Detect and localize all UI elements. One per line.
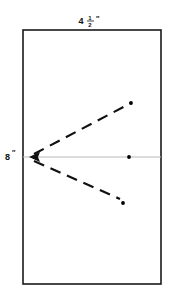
upper-ray-dot	[129, 101, 133, 105]
height-label-inch-mark: ″	[12, 149, 16, 156]
lower-ray-dot	[121, 201, 125, 205]
height-label-value: 8	[5, 152, 10, 162]
height-dimension-label: 8 ″	[5, 149, 16, 162]
center-line-dot	[127, 155, 131, 159]
width-label-numerator: 1	[88, 15, 92, 21]
width-label-whole: 4	[78, 16, 83, 26]
width-dimension-label: 4 1 2 ″	[78, 15, 100, 28]
width-label-denominator: 2	[88, 22, 92, 28]
width-label-inch-mark: ″	[96, 15, 100, 22]
figure-canvas: 4 1 2 ″ 8 ″	[0, 0, 172, 296]
technical-drawing-figure: 4 1 2 ″ 8 ″	[0, 0, 172, 296]
